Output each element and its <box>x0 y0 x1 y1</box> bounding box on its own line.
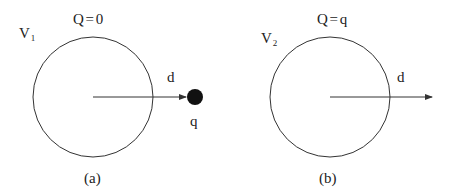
distance-label-b: d <box>397 70 405 85</box>
volume-label-b-subscript: 2 <box>273 38 278 48</box>
volume-label-a: V1 <box>19 26 35 43</box>
volume-label-b: V2 <box>261 31 277 48</box>
volume-label-a-subscript: 1 <box>31 33 36 43</box>
point-charge-label: q <box>190 114 198 129</box>
distance-label-a: d <box>167 70 175 85</box>
charge-label-b: Q = q <box>317 12 346 27</box>
charge-label-a: Q = 0 <box>73 12 102 27</box>
panel-a-graphics <box>33 37 203 157</box>
volume-label-b-main: V <box>261 30 272 46</box>
volume-label-a-main: V <box>19 25 30 41</box>
diagram-canvas <box>0 0 450 195</box>
point-charge-icon <box>187 89 203 105</box>
panel-b-graphics <box>270 37 432 157</box>
caption-a: (a) <box>84 171 101 186</box>
caption-b: (b) <box>319 171 337 186</box>
